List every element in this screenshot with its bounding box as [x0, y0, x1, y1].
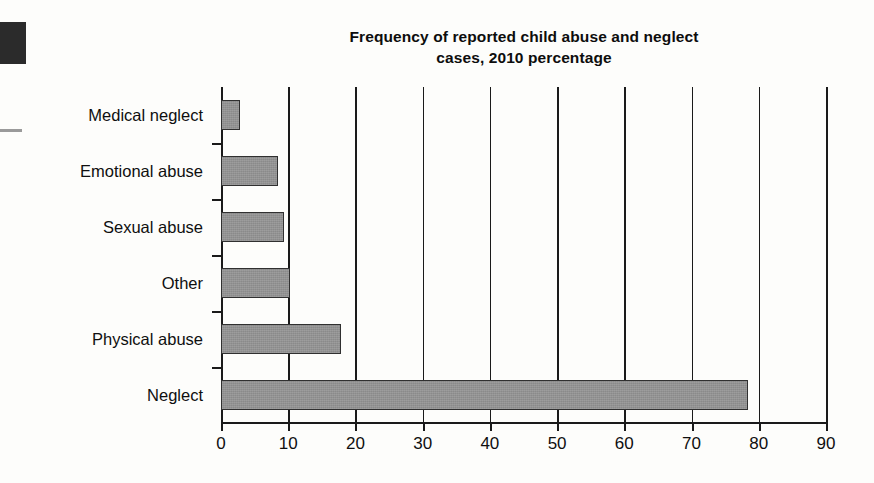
y-axis-label-sexual-abuse: Sexual abuse [103, 218, 203, 237]
x-axis-label-10: 10 [279, 434, 298, 454]
category-row: Physical abuse [221, 311, 826, 367]
category-row: Other [221, 255, 826, 311]
bar-chart-figure: Frequency of reported child abuse and ne… [0, 0, 874, 483]
bar-medical-neglect[interactable] [221, 100, 240, 130]
y-axis-label-medical-neglect: Medical neglect [88, 106, 203, 125]
x-axis-tick-50 [557, 422, 559, 431]
category-row: Neglect [221, 367, 826, 423]
category-row: Emotional abuse [221, 143, 826, 199]
x-axis-tick-40 [490, 422, 492, 431]
x-axis-tick-30 [423, 422, 425, 431]
x-axis-tick-10 [288, 422, 290, 431]
bar-sexual-abuse[interactable] [221, 212, 284, 242]
x-axis-tick-20 [355, 422, 357, 431]
chart-title-line-1: Frequency of reported child abuse and ne… [221, 26, 827, 47]
y-axis-label-neglect: Neglect [147, 386, 203, 405]
y-axis-tick [212, 367, 221, 369]
x-axis-tick-60 [624, 422, 626, 431]
bar-emotional-abuse[interactable] [221, 156, 278, 186]
x-axis-tick-70 [692, 422, 694, 431]
x-axis-label-40: 40 [480, 434, 499, 454]
bar-neglect[interactable] [221, 380, 748, 410]
plot-area: Medical neglectEmotional abuseSexual abu… [221, 87, 826, 423]
y-axis-label-physical-abuse: Physical abuse [92, 330, 203, 349]
chart-title-line-2: cases, 2010 percentage [221, 47, 827, 68]
x-axis-label-0: 0 [216, 434, 225, 454]
x-axis-label-90: 90 [817, 434, 836, 454]
category-row: Medical neglect [221, 87, 826, 143]
x-axis-label-50: 50 [548, 434, 567, 454]
x-axis-tick-80 [759, 422, 761, 431]
bar-physical-abuse[interactable] [221, 324, 341, 354]
y-axis-label-emotional-abuse: Emotional abuse [80, 162, 203, 181]
x-axis-tick-90 [826, 422, 828, 431]
y-axis-label-other: Other [162, 274, 203, 293]
x-axis-label-20: 20 [346, 434, 365, 454]
chart-title: Frequency of reported child abuse and ne… [221, 26, 827, 68]
x-axis-label-70: 70 [682, 434, 701, 454]
bar-other[interactable] [221, 268, 290, 298]
category-row: Sexual abuse [221, 199, 826, 255]
y-axis-tick [212, 311, 221, 313]
x-axis-label-30: 30 [413, 434, 432, 454]
x-axis-label-80: 80 [749, 434, 768, 454]
gridline-90 [826, 87, 828, 423]
x-axis-label-60: 60 [615, 434, 634, 454]
y-axis-tick [212, 199, 221, 201]
y-axis-tick [212, 255, 221, 257]
x-axis-tick-0 [221, 422, 223, 431]
y-axis-tick [212, 143, 221, 145]
